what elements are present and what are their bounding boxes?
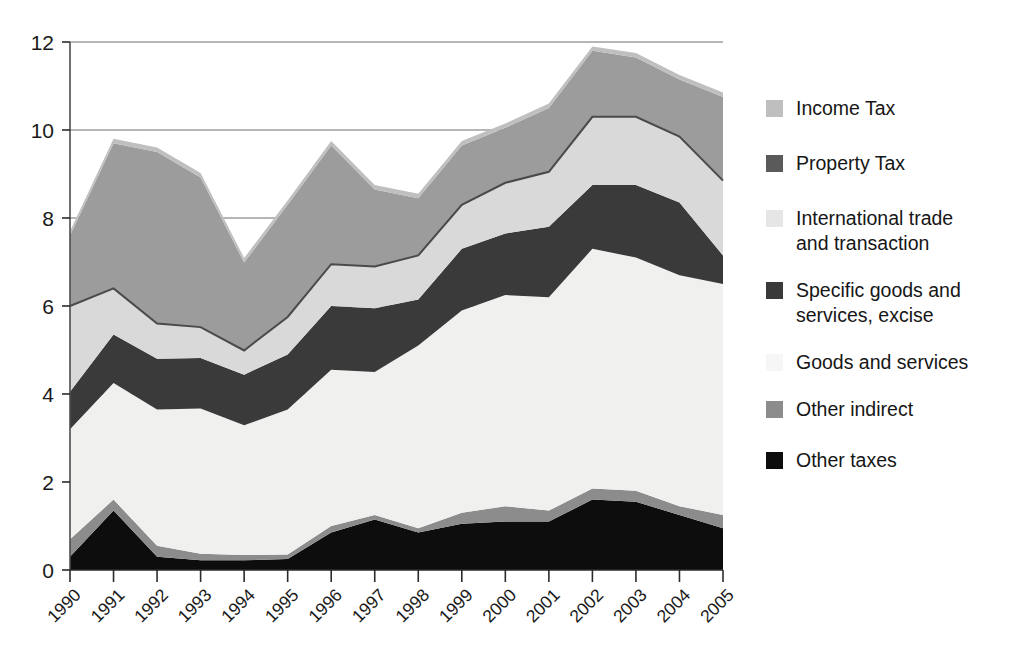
y-tick-label-6: 6	[42, 295, 54, 318]
area-series-layer	[70, 46, 723, 570]
legend-swatch-icon	[766, 354, 783, 371]
y-tick-label-4: 4	[42, 383, 54, 406]
x-tick-label-1996: 1996	[304, 585, 346, 627]
y-tick-label-8: 8	[42, 207, 54, 230]
x-tick-label-2004: 2004	[653, 585, 695, 627]
legend-item: Property Tax	[766, 151, 1015, 176]
y-tick-labels: 024681012	[31, 31, 55, 582]
legend-swatch-icon	[766, 282, 783, 299]
x-tick-label-1991: 1991	[87, 585, 129, 627]
y-tick-label-12: 12	[31, 31, 54, 54]
x-tick-label-1997: 1997	[348, 585, 390, 627]
y-tick-label-0: 0	[42, 559, 54, 582]
y-tick-label-2: 2	[42, 471, 54, 494]
x-tick-labels: 1990199119921993199419951996199719981999…	[43, 585, 738, 627]
x-tick-label-2002: 2002	[566, 585, 608, 627]
x-tick-label-2005: 2005	[696, 585, 738, 627]
chart-canvas: 024681012 199019911992199319941995199619…	[0, 0, 760, 654]
chart-page: 024681012 199019911992199319941995199619…	[0, 0, 1015, 654]
legend-item-label: International trade and transaction	[796, 206, 953, 256]
x-tick-label-1994: 1994	[217, 585, 259, 627]
chart-legend: Income TaxProperty TaxInternational trad…	[766, 96, 1015, 473]
x-tick-label-2003: 2003	[609, 585, 651, 627]
legend-item-label: Other taxes	[796, 448, 897, 473]
x-tick-label-1998: 1998	[391, 585, 433, 627]
y-tick-label-10: 10	[31, 119, 54, 142]
legend-swatch-icon	[766, 100, 783, 117]
x-tick-label-1992: 1992	[130, 585, 172, 627]
stacked-area-chart: 024681012 199019911992199319941995199619…	[0, 0, 760, 654]
legend-item: Specific goods and services, excise	[766, 278, 1015, 328]
legend-item: Other taxes	[766, 448, 1015, 473]
x-tick-label-1999: 1999	[435, 585, 477, 627]
legend-swatch-icon	[766, 155, 783, 172]
x-tick-label-1990: 1990	[43, 585, 85, 627]
x-tick-label-2001: 2001	[522, 585, 564, 627]
x-tick-label-1995: 1995	[261, 585, 303, 627]
legend-item-label: Income Tax	[796, 96, 895, 121]
legend-item-label: Specific goods and services, excise	[796, 278, 961, 328]
legend-item: Income Tax	[766, 96, 1015, 121]
legend-item: Other indirect	[766, 397, 1015, 422]
legend-item-label: Property Tax	[796, 151, 905, 176]
legend-swatch-icon	[766, 401, 783, 418]
legend-item: Goods and services	[766, 350, 1015, 375]
x-tick-label-1993: 1993	[174, 585, 216, 627]
legend-item: International trade and transaction	[766, 206, 1015, 256]
legend-swatch-icon	[766, 210, 783, 227]
x-tick-label-2000: 2000	[478, 585, 520, 627]
legend-item-label: Other indirect	[796, 397, 913, 422]
legend-swatch-icon	[766, 452, 783, 469]
legend-item-label: Goods and services	[796, 350, 968, 375]
